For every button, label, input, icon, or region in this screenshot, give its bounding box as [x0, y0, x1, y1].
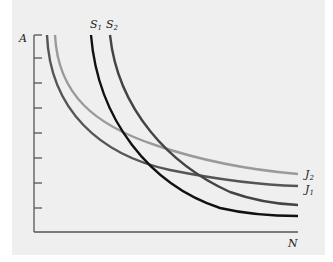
s2-label: S2 — [106, 18, 119, 32]
axes — [34, 35, 298, 232]
curve-j2 — [55, 35, 298, 174]
j1-label: J1 — [303, 183, 314, 197]
curve-j1 — [47, 35, 298, 186]
curve-s1 — [91, 35, 298, 216]
indifference-curve-diagram: A N S1 S2 J2 J1 — [0, 0, 333, 262]
j2-label: J2 — [303, 168, 314, 182]
y-axis-label: A — [18, 32, 27, 45]
x-axis-label: N — [287, 237, 298, 250]
curve-s2 — [110, 35, 298, 205]
y-axis-ticks — [34, 35, 42, 208]
s1-label: S1 — [90, 18, 102, 32]
